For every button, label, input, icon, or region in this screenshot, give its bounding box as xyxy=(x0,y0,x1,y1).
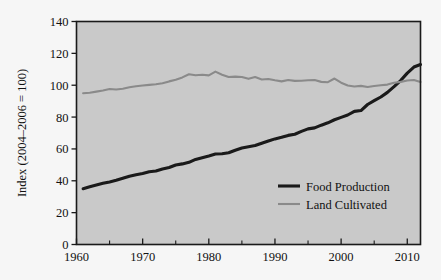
y-tick-label: 120 xyxy=(50,47,69,61)
x-tick-label: 2000 xyxy=(329,250,354,264)
legend-label-food-production: Food Production xyxy=(306,180,390,194)
x-tick-label: 1980 xyxy=(196,250,221,264)
chart-figure: 196019701980199020002010 020406080100120… xyxy=(0,0,441,280)
y-tick-label: 20 xyxy=(56,206,69,220)
x-tick-label: 1970 xyxy=(130,250,155,264)
line-chart: 196019701980199020002010 020406080100120… xyxy=(0,0,441,280)
x-tick-label: 1990 xyxy=(262,250,287,264)
y-axis-title: Index (2004–2006 = 100) xyxy=(15,69,29,197)
y-tick-label: 40 xyxy=(56,174,69,188)
y-tick-label: 140 xyxy=(50,15,69,29)
y-tick-label: 60 xyxy=(56,142,69,156)
y-tick-label: 80 xyxy=(56,111,69,125)
y-tick-label: 100 xyxy=(50,79,69,93)
x-tick-label: 2010 xyxy=(395,250,420,264)
legend-label-land-cultivated: Land Cultivated xyxy=(306,198,388,212)
y-tick-label: 0 xyxy=(62,238,68,252)
